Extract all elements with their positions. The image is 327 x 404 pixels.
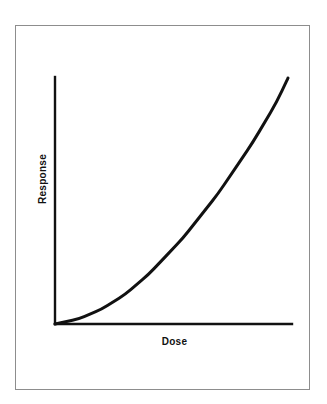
x-axis-label-wrap: Dose (0, 336, 327, 347)
y-axis-label: Response (37, 154, 48, 204)
figure-root: Response Dose (0, 0, 327, 404)
dose-response-curve (55, 78, 288, 324)
plot-area: Response Dose (0, 0, 327, 404)
x-axis-label: Dose (162, 336, 188, 347)
